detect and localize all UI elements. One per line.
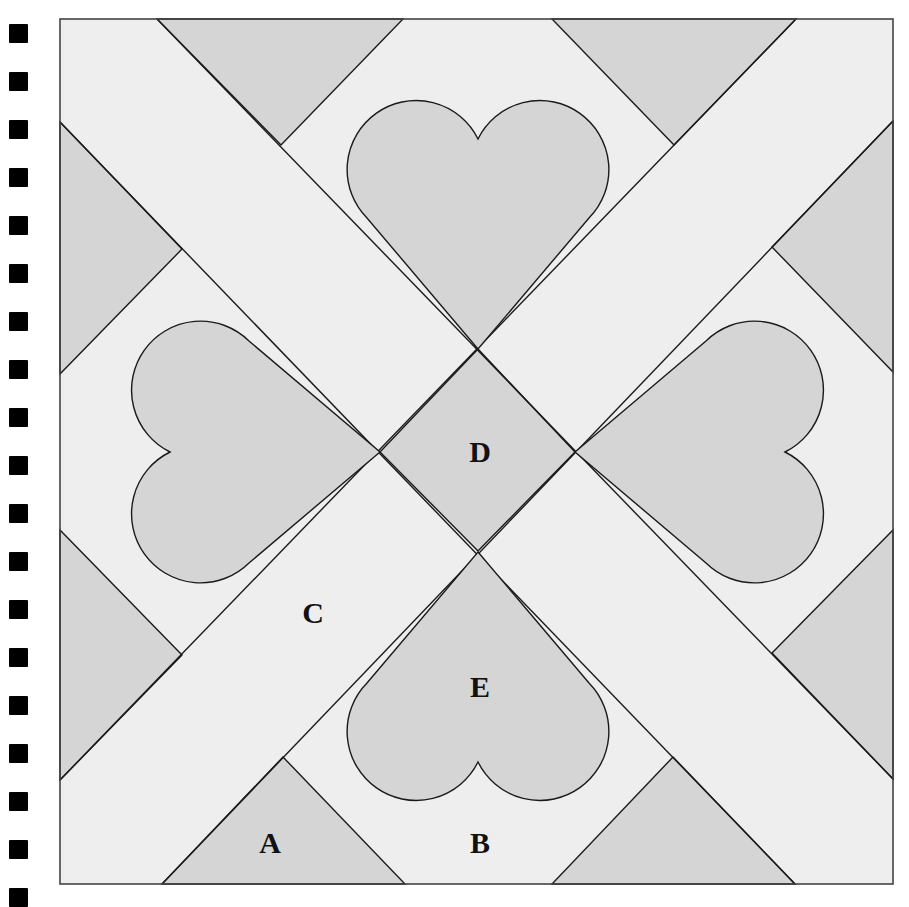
label-c: C xyxy=(302,596,324,629)
label-d: D xyxy=(469,435,491,468)
label-a: A xyxy=(259,826,281,859)
label-e: E xyxy=(470,670,490,703)
label-b: B xyxy=(470,826,490,859)
